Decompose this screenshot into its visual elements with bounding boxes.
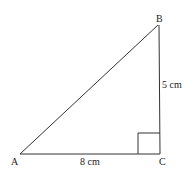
- side-label-bc: 5 cm: [162, 79, 182, 90]
- side-bc: [159, 25, 160, 154]
- vertex-label-a: A: [11, 156, 19, 167]
- side-ab: [20, 25, 158, 154]
- side-label-ac: 8 cm: [80, 156, 100, 167]
- vertex-label-b: B: [156, 13, 163, 24]
- vertex-label-c: C: [159, 156, 166, 167]
- triangle-diagram: B A C 5 cm 8 cm: [0, 0, 185, 175]
- right-angle-marker: [138, 133, 160, 154]
